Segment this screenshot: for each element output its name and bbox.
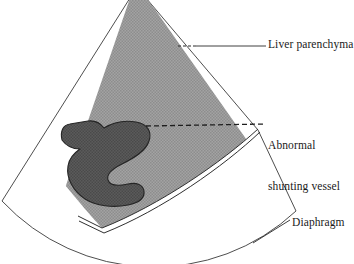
- label-abnormal-shunting-vessel: Abnormal shunting vessel: [268, 112, 340, 220]
- label-abnormal-line-1: Abnormal: [268, 139, 340, 153]
- label-diaphragm: Diaphragm: [292, 216, 345, 230]
- label-abnormal-line-2: shunting vessel: [268, 180, 340, 194]
- label-liver-parenchyma: Liver parenchyma: [268, 38, 354, 52]
